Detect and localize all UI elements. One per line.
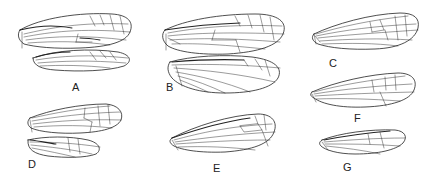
panel-label-c: C: [329, 58, 337, 69]
panel-a-hindwing: [33, 50, 129, 71]
panel-f-forewing: [311, 73, 416, 107]
panel-label-f: F: [354, 113, 361, 124]
wing-venation-figure: A B C D E F G: [0, 0, 438, 184]
panel-a-forewing: [18, 14, 131, 49]
panel-d-hindwing: [28, 137, 100, 157]
panel-d-forewing: [28, 104, 122, 133]
panel-b-forewing: [163, 14, 285, 54]
wing-drawings: [0, 0, 438, 184]
panel-e-forewing: [170, 114, 275, 152]
panel-label-a: A: [72, 82, 79, 93]
panel-g-forewing: [320, 130, 406, 154]
panel-label-d: D: [28, 159, 36, 170]
panel-c-forewing: [312, 13, 418, 49]
panel-b-hindwing: [168, 56, 280, 93]
panel-label-b: B: [166, 82, 173, 93]
panel-label-e: E: [213, 163, 220, 174]
panel-label-g: G: [343, 162, 352, 173]
